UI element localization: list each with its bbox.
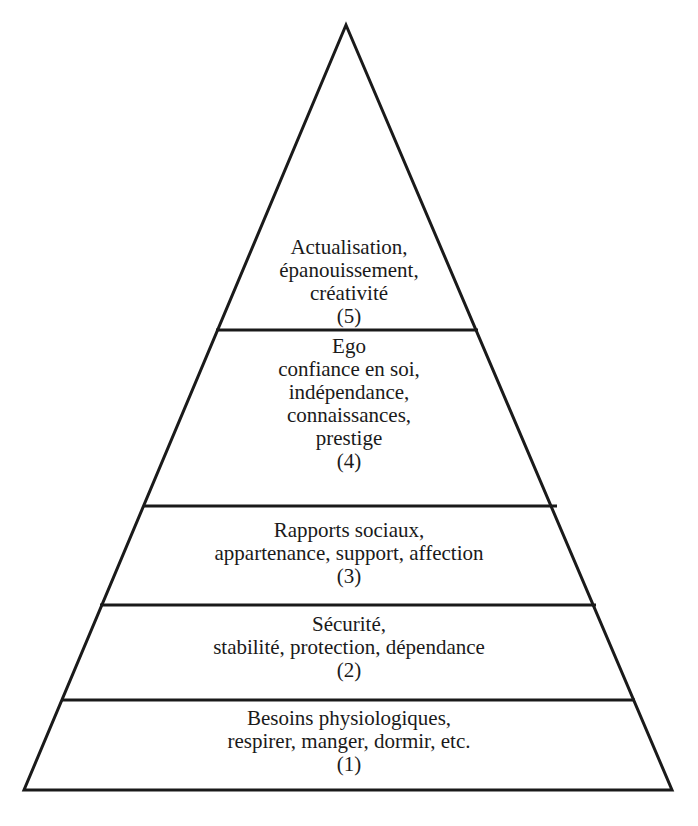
level-2-line: Sécurité,: [0, 613, 698, 636]
level-3-text: Rapports sociaux, appartenance, support,…: [0, 519, 698, 588]
level-1-line: respirer, manger, dormir, etc.: [0, 730, 698, 753]
level-3-line: Rapports sociaux,: [0, 519, 698, 542]
level-4-line: prestige: [0, 427, 698, 450]
level-1-line: Besoins physiologiques,: [0, 707, 698, 730]
level-4-line: connaissances,: [0, 404, 698, 427]
level-4-rank: (4): [0, 450, 698, 473]
level-2-text: Sécurité, stabilité, protection, dépenda…: [0, 613, 698, 682]
level-2-rank: (2): [0, 659, 698, 682]
level-4-line: confiance en soi,: [0, 358, 698, 381]
level-4-line: indépendance,: [0, 381, 698, 404]
level-1-text: Besoins physiologiques, respirer, manger…: [0, 707, 698, 776]
level-5-text: Actualisation, épanouissement, créativit…: [0, 236, 698, 328]
level-5-line: Actualisation,: [0, 236, 698, 259]
level-2-line: stabilité, protection, dépendance: [0, 636, 698, 659]
level-1-rank: (1): [0, 753, 698, 776]
level-4-text: Ego confiance en soi, indépendance, conn…: [0, 335, 698, 473]
level-3-line: appartenance, support, affection: [0, 542, 698, 565]
level-4-line: Ego: [0, 335, 698, 358]
level-5-rank: (5): [0, 305, 698, 328]
level-5-line: épanouissement,: [0, 259, 698, 282]
level-3-rank: (3): [0, 565, 698, 588]
level-5-line: créativité: [0, 282, 698, 305]
